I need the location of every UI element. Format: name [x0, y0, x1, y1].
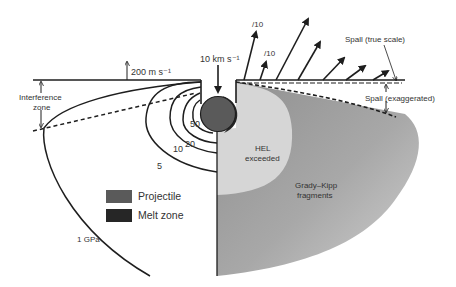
legend: Projectile Melt zone	[106, 190, 184, 222]
grady-kipp-label-line1: Grady–Kipp	[295, 181, 338, 190]
legend-swatch-projectile	[106, 190, 132, 203]
contour-label-50: 50	[190, 119, 200, 129]
contour-label-1gpa: 1 GPa	[77, 235, 100, 244]
legend-label-projectile: Projectile	[138, 190, 181, 202]
legend-label-melt: Melt zone	[138, 209, 184, 221]
pressure-contours	[33, 82, 217, 276]
interference-label-line2: zone	[33, 103, 51, 112]
ejecta-arrow-5	[323, 58, 344, 80]
hel-label-line2: exceeded	[245, 154, 280, 163]
spall-true-scale-label: Spall (true scale)	[345, 35, 405, 44]
contour-label-5: 5	[157, 161, 162, 171]
impact-velocity-label: 10 km s⁻¹	[200, 54, 240, 64]
surface-velocity-label: 200 m s⁻¹	[131, 67, 171, 77]
interference-label-line1: Interference	[19, 93, 62, 102]
contour-label-10: 10	[173, 144, 183, 154]
ejecta-arrow-6	[346, 66, 365, 80]
damage-zones	[217, 82, 419, 276]
hel-label-line1: HEL	[255, 144, 271, 153]
projectile-group	[201, 95, 241, 133]
projectile	[201, 97, 236, 132]
ejecta-arrow-7	[373, 71, 388, 80]
spall-exaggerated-label: Spall (exaggerated)	[365, 94, 435, 103]
ejecta-arrow-1	[244, 32, 256, 80]
legend-swatch-melt	[106, 209, 132, 222]
impact-diagram: 10 km s⁻¹ 200 m s⁻¹ Interference zone 50…	[0, 0, 456, 287]
spall-true-scale-pointer	[384, 45, 396, 80]
contour-1gpa	[44, 82, 201, 276]
grady-kipp-label-line2: fragments	[297, 191, 333, 200]
arrow-scale-label-2: /10	[264, 49, 276, 58]
arrow-scale-label-1: /10	[252, 20, 264, 29]
ejecta-arrow-2	[260, 62, 266, 80]
contour-label-20: 20	[185, 139, 195, 149]
ejecta-arrow-4	[298, 42, 320, 80]
